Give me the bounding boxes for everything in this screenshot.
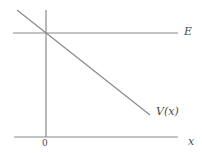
origin-label: 0 (42, 139, 48, 148)
potential-curve-line (17, 10, 150, 115)
energy-level-label: E (184, 26, 192, 37)
potential-function-label: V(x) (156, 106, 179, 117)
x-axis-label: x (188, 136, 194, 147)
diagram-canvas (0, 0, 202, 153)
potential-energy-diagram: E V(x) x 0 (0, 0, 202, 153)
